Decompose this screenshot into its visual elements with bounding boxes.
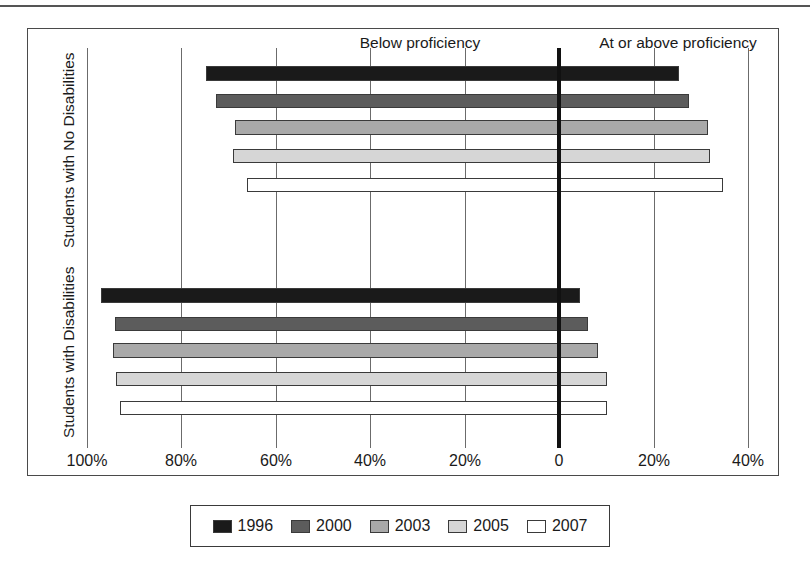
legend-label-2000: 2000 [316, 518, 352, 534]
page-top-rule [0, 5, 810, 7]
legend-swatch-2003 [370, 520, 389, 533]
legend-item-1996[interactable]: 1996 [213, 518, 274, 534]
legend-item-2007[interactable]: 2007 [527, 518, 588, 534]
legend-items: 19962000200320052007 [191, 506, 609, 546]
legend-swatch-2007 [527, 520, 546, 533]
header-at-or-above-proficiency: At or above proficiency [583, 34, 773, 52]
figure-frame [27, 28, 779, 476]
legend-label-2007: 2007 [552, 518, 588, 534]
group-label-no-disabilities: Students with No Disabilities [60, 52, 78, 248]
legend-item-2000[interactable]: 2000 [291, 518, 352, 534]
legend-item-2005[interactable]: 2005 [448, 518, 509, 534]
legend-swatch-2005 [448, 520, 467, 533]
legend-label-2005: 2005 [473, 518, 509, 534]
legend-item-2003[interactable]: 2003 [370, 518, 431, 534]
legend-swatch-2000 [291, 520, 310, 533]
legend: 19962000200320052007 [190, 505, 610, 547]
group-label-disabilities: Students with Disabilities [60, 267, 78, 438]
legend-label-1996: 1996 [238, 518, 274, 534]
header-below-proficiency: Below proficiency [340, 34, 500, 52]
chart-page: 100%80%60%40%20%020%40% Students with No… [0, 0, 810, 573]
legend-label-2003: 2003 [395, 518, 431, 534]
legend-swatch-1996 [213, 520, 232, 533]
